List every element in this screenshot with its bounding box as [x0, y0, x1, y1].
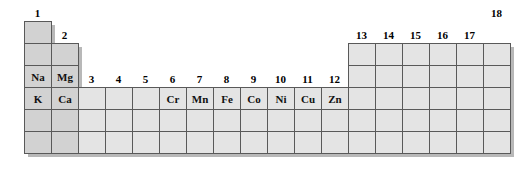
element-cell-empty[interactable]: [321, 109, 349, 132]
element-cell-empty[interactable]: [375, 43, 403, 66]
group-label-1: 1: [24, 7, 51, 19]
element-cell-empty[interactable]: [51, 109, 79, 132]
element-cell-zn[interactable]: Zn: [321, 87, 349, 110]
element-cell-empty[interactable]: [186, 131, 214, 154]
element-cell-empty[interactable]: [267, 131, 295, 154]
element-cell-cu[interactable]: Cu: [294, 87, 322, 110]
element-symbol: Na: [25, 71, 51, 82]
element-cell-empty[interactable]: [240, 109, 268, 132]
group-label-10: 10: [267, 73, 294, 85]
element-cell-fe[interactable]: Fe: [213, 87, 241, 110]
group-label-3: 3: [78, 73, 105, 85]
element-cell-empty[interactable]: [159, 131, 187, 154]
element-symbol: Fe: [214, 93, 240, 104]
element-cell-empty[interactable]: [348, 65, 376, 88]
group-label-17: 17: [456, 29, 483, 41]
group-label-8: 8: [213, 73, 240, 85]
element-cell-empty[interactable]: [429, 65, 457, 88]
element-symbol: Mg: [52, 71, 78, 82]
element-cell-empty[interactable]: [24, 109, 52, 132]
element-cell-empty[interactable]: [132, 131, 160, 154]
element-cell-empty[interactable]: [402, 109, 430, 132]
element-cell-empty[interactable]: [78, 109, 106, 132]
element-cell-empty[interactable]: [402, 131, 430, 154]
element-cell-k[interactable]: K: [24, 87, 52, 110]
element-cell-empty[interactable]: [51, 131, 79, 154]
element-cell-empty[interactable]: [321, 131, 349, 154]
element-cell-empty[interactable]: [348, 131, 376, 154]
element-cell-ca[interactable]: Ca: [51, 87, 79, 110]
element-symbol: Co: [241, 93, 267, 104]
element-cell-empty[interactable]: [402, 87, 430, 110]
element-cell-empty[interactable]: [483, 65, 511, 88]
element-symbol: Ni: [268, 93, 294, 104]
element-cell-empty[interactable]: [159, 109, 187, 132]
element-cell-empty[interactable]: [456, 131, 484, 154]
element-cell-empty[interactable]: [375, 131, 403, 154]
group-label-2: 2: [51, 29, 78, 41]
element-cell-empty[interactable]: [132, 87, 160, 110]
element-cell-empty[interactable]: [132, 109, 160, 132]
element-cell-co[interactable]: Co: [240, 87, 268, 110]
element-symbol: Ca: [52, 93, 78, 104]
element-cell-empty[interactable]: [24, 43, 52, 66]
group-label-12: 12: [321, 73, 348, 85]
element-cell-ni[interactable]: Ni: [267, 87, 295, 110]
element-cell-mg[interactable]: Mg: [51, 65, 79, 88]
element-cell-empty[interactable]: [78, 87, 106, 110]
element-cell-empty[interactable]: [105, 87, 133, 110]
element-cell-empty[interactable]: [375, 65, 403, 88]
element-cell-empty[interactable]: [186, 109, 214, 132]
element-cell-empty[interactable]: [483, 131, 511, 154]
group-label-11: 11: [294, 73, 321, 85]
element-cell-empty[interactable]: [429, 131, 457, 154]
element-cell-empty[interactable]: [483, 109, 511, 132]
element-symbol: Cr: [160, 93, 186, 104]
element-cell-empty[interactable]: [348, 87, 376, 110]
element-cell-empty[interactable]: [240, 131, 268, 154]
element-symbol: Mn: [187, 93, 213, 104]
element-cell-empty[interactable]: [456, 87, 484, 110]
element-cell-empty[interactable]: [429, 43, 457, 66]
group-label-6: 6: [159, 73, 186, 85]
element-symbol: K: [25, 93, 51, 104]
group-label-9: 9: [240, 73, 267, 85]
element-cell-empty[interactable]: [375, 87, 403, 110]
element-cell-empty[interactable]: [294, 109, 322, 132]
element-cell-empty[interactable]: [348, 109, 376, 132]
element-cell-empty[interactable]: [375, 109, 403, 132]
element-cell-empty[interactable]: [213, 131, 241, 154]
element-symbol: Zn: [322, 93, 348, 104]
group-label-14: 14: [375, 29, 402, 41]
group-label-13: 13: [348, 29, 375, 41]
element-cell-empty[interactable]: [429, 109, 457, 132]
group-label-7: 7: [186, 73, 213, 85]
element-cell-empty[interactable]: [24, 131, 52, 154]
element-cell-empty[interactable]: [429, 87, 457, 110]
element-cell-empty[interactable]: [402, 43, 430, 66]
element-cell-empty[interactable]: [456, 65, 484, 88]
group-label-5: 5: [132, 73, 159, 85]
element-cell-empty[interactable]: [456, 43, 484, 66]
element-cell-empty[interactable]: [294, 131, 322, 154]
element-cell-cr[interactable]: Cr: [159, 87, 187, 110]
group-label-16: 16: [429, 29, 456, 41]
element-cell-empty[interactable]: [483, 87, 511, 110]
element-symbol: Cu: [295, 93, 321, 104]
element-cell-empty[interactable]: [348, 43, 376, 66]
element-cell-empty[interactable]: [105, 109, 133, 132]
element-cell-na[interactable]: Na: [24, 65, 52, 88]
element-cell-empty[interactable]: [456, 109, 484, 132]
element-cell-empty[interactable]: [78, 131, 106, 154]
element-cell-empty[interactable]: [483, 43, 511, 66]
element-cell-empty[interactable]: [51, 43, 79, 66]
group-label-4: 4: [105, 73, 132, 85]
element-cell-empty[interactable]: [402, 65, 430, 88]
element-cell-empty[interactable]: [24, 21, 52, 44]
element-cell-empty[interactable]: [213, 109, 241, 132]
element-cell-empty[interactable]: [105, 131, 133, 154]
group-label-18: 18: [483, 7, 510, 19]
element-cell-empty[interactable]: [267, 109, 295, 132]
element-cell-mn[interactable]: Mn: [186, 87, 214, 110]
